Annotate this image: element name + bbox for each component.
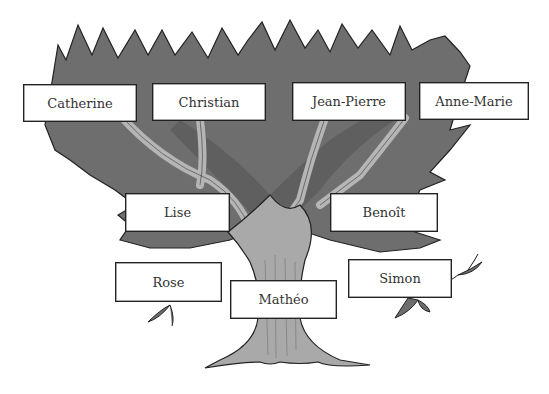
name-box-matheo: Mathéo bbox=[230, 280, 337, 319]
name-label: Mathéo bbox=[258, 292, 308, 307]
leaf-sprig-far-right bbox=[458, 254, 482, 275]
name-label: Catherine bbox=[47, 96, 112, 111]
name-label: Lise bbox=[164, 205, 191, 220]
leaf-sprig-left bbox=[148, 305, 173, 326]
name-box-simon: Simon bbox=[348, 259, 452, 298]
name-label: Jean-Pierre bbox=[312, 94, 386, 109]
name-box-catherine: Catherine bbox=[23, 84, 137, 122]
name-label: Benoît bbox=[363, 205, 406, 220]
name-label: Christian bbox=[179, 95, 240, 110]
name-box-rose: Rose bbox=[115, 262, 222, 302]
name-box-christian: Christian bbox=[152, 83, 266, 121]
name-box-jean-pierre: Jean-Pierre bbox=[292, 82, 406, 121]
name-box-anne-marie: Anne-Marie bbox=[419, 82, 529, 120]
name-box-benoit: Benoît bbox=[330, 193, 438, 232]
name-box-lise: Lise bbox=[125, 193, 230, 232]
name-label: Simon bbox=[379, 271, 421, 286]
name-label: Anne-Marie bbox=[435, 94, 512, 109]
family-tree-illustration bbox=[0, 0, 549, 394]
leaf-sprig-right bbox=[395, 298, 430, 318]
name-label: Rose bbox=[153, 275, 185, 290]
